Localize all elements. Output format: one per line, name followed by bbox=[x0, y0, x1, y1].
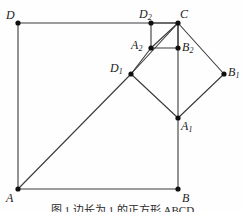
vertex-point-b2 bbox=[175, 45, 180, 50]
vertex-label-d: D bbox=[6, 9, 15, 21]
vertex-label-c: C bbox=[180, 8, 188, 20]
vertex-point-b1 bbox=[221, 71, 226, 76]
vertex-label-b2: B2 bbox=[182, 41, 194, 55]
diamond-A1-D1 bbox=[131, 74, 178, 118]
vertex-point-d bbox=[15, 20, 20, 25]
vertex-label-d1: D1 bbox=[110, 62, 123, 76]
vertices-group bbox=[15, 20, 226, 191]
vertex-label-a1: A1 bbox=[181, 120, 193, 134]
vertex-point-b bbox=[175, 186, 180, 191]
main-diagonal-A-D1 bbox=[18, 74, 131, 189]
vertex-point-a bbox=[15, 186, 20, 191]
diamond-B1-A1 bbox=[178, 74, 224, 118]
geometry-figure: DD2CA2B2D1B1A1AB 图 1 边长为 1 的正方形 ABCD bbox=[0, 0, 245, 212]
figure-caption: 图 1 边长为 1 的正方形 ABCD bbox=[0, 203, 245, 212]
vertex-point-a2 bbox=[148, 45, 153, 50]
main-diagonal-A2-C bbox=[151, 23, 178, 48]
vertex-label-a2: A2 bbox=[131, 39, 143, 53]
vertex-point-a1 bbox=[175, 115, 180, 120]
vertex-label-d2: D2 bbox=[139, 8, 152, 22]
vertex-label-b1: B1 bbox=[228, 66, 240, 80]
vertex-point-c bbox=[175, 20, 180, 25]
geometry-canvas bbox=[0, 0, 245, 212]
vertex-point-d1 bbox=[128, 71, 133, 76]
